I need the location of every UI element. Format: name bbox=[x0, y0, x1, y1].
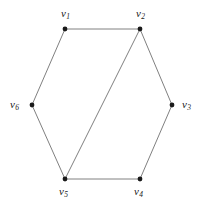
graph-canvas bbox=[0, 0, 206, 215]
vertex-label-subscript-v4: 4 bbox=[139, 190, 143, 199]
graph-edge-v2-v3 bbox=[140, 29, 172, 105]
vertex-label-v3: v3 bbox=[182, 99, 191, 112]
graph-vertex-v2 bbox=[138, 27, 143, 32]
vertex-label-v5: v5 bbox=[59, 186, 68, 199]
graph-vertex-v3 bbox=[170, 103, 175, 108]
graph-vertex-v1 bbox=[63, 27, 68, 32]
graph-vertex-v5 bbox=[63, 177, 68, 182]
edges-layer bbox=[32, 29, 172, 179]
vertex-label-subscript-v5: 5 bbox=[64, 190, 68, 199]
graph-vertex-v4 bbox=[138, 177, 143, 182]
vertex-label-v1: v1 bbox=[61, 8, 70, 21]
graph-figure: v1v2v3v4v5v6 bbox=[0, 0, 206, 215]
vertex-label-v6: v6 bbox=[10, 99, 19, 112]
vertex-label-subscript-v2: 2 bbox=[141, 12, 145, 21]
graph-vertex-v6 bbox=[30, 103, 35, 108]
graph-edge-v5-v6 bbox=[32, 105, 65, 179]
vertex-label-subscript-v6: 6 bbox=[15, 103, 19, 112]
graph-edge-v2-v5 bbox=[65, 29, 140, 179]
vertex-label-subscript-v1: 1 bbox=[66, 12, 70, 21]
vertex-label-v4: v4 bbox=[134, 186, 143, 199]
vertex-label-subscript-v3: 3 bbox=[187, 103, 191, 112]
graph-edge-v6-v1 bbox=[32, 29, 65, 105]
graph-edge-v3-v4 bbox=[140, 105, 172, 179]
vertex-label-v2: v2 bbox=[136, 8, 145, 21]
